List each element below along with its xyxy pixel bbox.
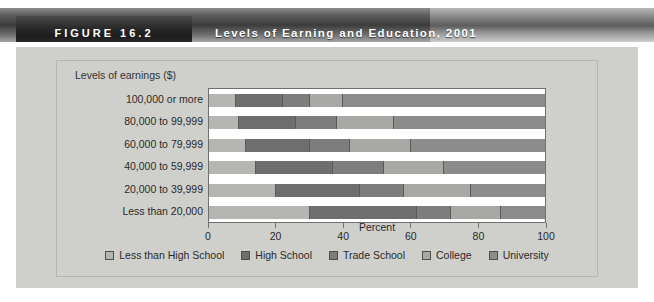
x-axis-title: Percent bbox=[208, 221, 546, 233]
chart-legend: Less than High SchoolHigh SchoolTrade Sc… bbox=[57, 249, 597, 261]
bar-segment bbox=[209, 184, 276, 197]
bar-segment bbox=[310, 206, 418, 219]
legend-swatch-icon bbox=[329, 251, 338, 260]
bar-segment bbox=[310, 139, 350, 152]
bar-segment bbox=[417, 206, 451, 219]
bar-segment bbox=[404, 184, 471, 197]
chart-frame: Levels of earnings ($) 100,000 or more80… bbox=[56, 60, 598, 277]
bar-segment bbox=[350, 139, 410, 152]
bar-segment bbox=[209, 116, 239, 129]
legend-label: University bbox=[503, 249, 549, 261]
figure-panel: Levels of earnings ($) 100,000 or more80… bbox=[16, 47, 638, 288]
bar-row bbox=[209, 116, 545, 129]
bar-segment bbox=[246, 139, 310, 152]
legend-swatch-icon bbox=[241, 251, 250, 260]
legend-item: University bbox=[489, 249, 549, 261]
bar-segment bbox=[256, 161, 333, 174]
figure-number-block: FIGURE 16.2 bbox=[16, 16, 192, 42]
bar-segment bbox=[343, 94, 545, 107]
y-axis-tick-label: 100,000 or more bbox=[126, 93, 203, 105]
legend-label: Less than High School bbox=[119, 249, 224, 261]
bar-segment bbox=[394, 116, 545, 129]
bar-segment bbox=[310, 94, 344, 107]
y-axis-tick-label: 80,000 to 99,999 bbox=[124, 115, 203, 127]
figure-title: Levels of Earning and Education, 2001 bbox=[215, 16, 477, 42]
bar-segment bbox=[333, 161, 383, 174]
legend-item: College bbox=[422, 249, 472, 261]
bar-segment bbox=[337, 116, 394, 129]
bar-segment bbox=[283, 94, 310, 107]
y-axis-tick-label: 20,000 to 39,999 bbox=[124, 183, 203, 195]
bar-segment bbox=[501, 206, 545, 219]
bar-segment bbox=[384, 161, 444, 174]
bar-segment bbox=[360, 184, 404, 197]
legend-swatch-icon bbox=[422, 251, 431, 260]
stacked-bar-chart: Levels of earnings ($) 100,000 or more80… bbox=[57, 61, 597, 276]
bar-segment bbox=[296, 116, 336, 129]
plot-area bbox=[208, 88, 546, 223]
y-axis-tick-label: 40,000 to 59,999 bbox=[124, 160, 203, 172]
bar-segment bbox=[444, 161, 545, 174]
bar-segment bbox=[209, 139, 246, 152]
bar-segment bbox=[239, 116, 296, 129]
bar-segment bbox=[411, 139, 545, 152]
bar-segment bbox=[209, 206, 310, 219]
y-axis-tick-label: 60,000 to 79,999 bbox=[124, 138, 203, 150]
legend-label: Trade School bbox=[343, 249, 405, 261]
legend-label: College bbox=[436, 249, 472, 261]
bar-row bbox=[209, 184, 545, 197]
bar-row bbox=[209, 139, 545, 152]
legend-item: Trade School bbox=[329, 249, 405, 261]
bar-row bbox=[209, 94, 545, 107]
bar-segment bbox=[276, 184, 360, 197]
bar-segment bbox=[209, 94, 236, 107]
bar-segment bbox=[236, 94, 283, 107]
bar-segment bbox=[471, 184, 545, 197]
figure-banner: FIGURE 16.2 Levels of Earning and Educat… bbox=[0, 8, 654, 42]
legend-label: High School bbox=[255, 249, 312, 261]
y-axis-title: Levels of earnings ($) bbox=[75, 69, 176, 81]
bar-segment bbox=[209, 161, 256, 174]
bar-row bbox=[209, 206, 545, 219]
legend-swatch-icon bbox=[105, 251, 114, 260]
y-axis-tick-label: Less than 20,000 bbox=[122, 205, 203, 217]
bar-row bbox=[209, 161, 545, 174]
legend-swatch-icon bbox=[489, 251, 498, 260]
legend-item: High School bbox=[241, 249, 312, 261]
bar-segment bbox=[451, 206, 501, 219]
figure-number-label: FIGURE 16.2 bbox=[54, 27, 153, 39]
legend-item: Less than High School bbox=[105, 249, 224, 261]
